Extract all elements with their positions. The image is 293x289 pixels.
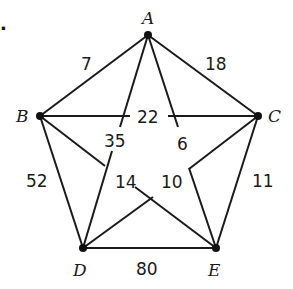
vertex-c — [254, 112, 262, 120]
problem-marker: . — [0, 13, 7, 34]
vertex-label-d: D — [72, 260, 87, 280]
vertex-label-e: E — [207, 260, 221, 280]
weight-a-e: 6 — [177, 134, 188, 154]
weight-c-d: 10 — [161, 172, 183, 192]
weight-b-d: 52 — [26, 171, 48, 191]
vertex-b — [36, 112, 44, 120]
weight-a-d: 35 — [104, 131, 126, 151]
vertex-label-c: C — [268, 106, 281, 126]
weight-a-c: 18 — [205, 54, 227, 74]
weight-a-b: 7 — [81, 54, 92, 74]
vertex-label-b: B — [15, 106, 29, 126]
weight-d-e: 80 — [136, 259, 158, 279]
weight-b-c: 22 — [137, 107, 159, 127]
edge-a-b — [40, 35, 148, 116]
weight-b-e: 14 — [115, 172, 137, 192]
weight-c-e: 11 — [252, 171, 274, 191]
vertex-a — [144, 31, 152, 39]
vertex-e — [212, 244, 220, 252]
graph-diagram: . A B C D E 7 18 22 35 6 14 10 — [0, 0, 293, 289]
vertex-label-a: A — [140, 8, 154, 28]
vertex-d — [79, 244, 87, 252]
edge-a-c — [148, 35, 258, 116]
